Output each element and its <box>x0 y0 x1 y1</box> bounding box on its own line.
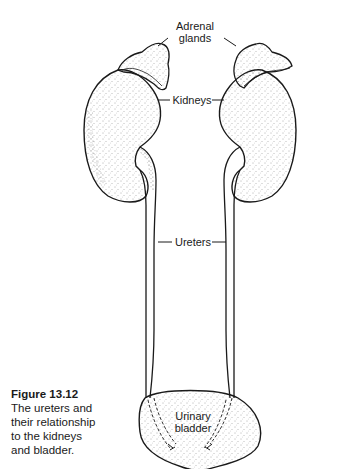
right-kidney <box>219 70 296 202</box>
urinary-bladder-label: Urinary bladder <box>168 410 218 434</box>
caption-line-3: to the kidneys <box>11 430 82 442</box>
ureters-label: Ureters <box>174 236 212 248</box>
caption-line-4: and bladder. <box>11 444 74 456</box>
figure-caption: Figure 13.12 The ureters and their relat… <box>11 387 121 457</box>
adrenal-glands-label: Adrenal glands <box>172 20 218 44</box>
left-kidney <box>84 70 161 202</box>
figure-number: Figure 13.12 <box>11 387 121 401</box>
bladder-label-line2: bladder <box>175 422 212 434</box>
kidneys-label: Kidneys <box>172 94 212 106</box>
bladder-label-line1: Urinary <box>175 410 210 422</box>
leader-lines <box>158 38 236 242</box>
adrenal-label-line1: Adrenal <box>176 20 214 32</box>
caption-line-2: their relationship <box>11 416 95 428</box>
caption-line-1: The ureters and <box>11 402 92 414</box>
adrenal-label-line2: glands <box>179 32 211 44</box>
